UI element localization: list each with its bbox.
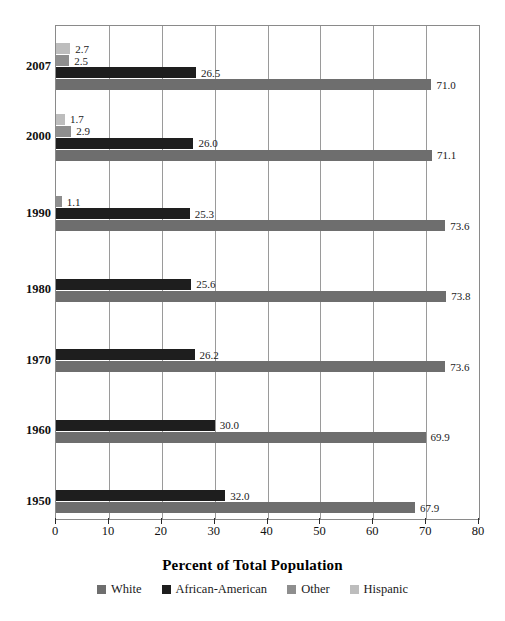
bar-group: 25.673.8 [56,279,479,303]
legend-item-african-american[interactable]: African-American [162,583,268,596]
bar-value-label: 2.9 [76,126,90,137]
gridline [426,26,427,519]
legend-label: Other [301,583,329,596]
bar-white[interactable] [56,291,446,302]
bar-white[interactable] [56,79,431,90]
bar-hispanic[interactable] [56,114,65,125]
bar-value-label: 25.3 [195,208,214,219]
bar-row: 73.8 [56,291,479,302]
axis-tick-label: 0 [52,525,58,538]
bar-value-label: 73.6 [450,220,469,231]
bar-value-label: 26.2 [200,349,219,360]
axis-tick-label: 10 [102,525,115,538]
bar-african-american[interactable] [56,138,193,149]
year-label-1990: 1990 [3,207,51,220]
bar-value-label: 73.8 [451,291,470,302]
legend-swatch-icon [350,585,359,594]
bar-row: 67.9 [56,502,479,513]
bar-white[interactable] [56,432,426,443]
bar-value-label: 30.0 [220,420,239,431]
bar-value-label: 1.7 [70,114,84,125]
axis-title: Percent of Total Population [0,557,505,574]
axis-tick-label: 40 [260,525,273,538]
gridline [215,26,216,519]
axis-tick-label: 30 [207,525,220,538]
gridline [320,26,321,519]
legend-label: White [111,583,142,596]
bar-value-label: 2.5 [74,55,88,66]
bar-group: 26.273.6 [56,349,479,373]
bar-row: 69.9 [56,432,479,443]
year-label-2007: 2007 [3,60,51,73]
bar-row: 26.5 [56,67,479,78]
bar-row: 73.6 [56,220,479,231]
bar-other[interactable] [56,55,69,66]
axis-tick-label: 60 [366,525,379,538]
bar-african-american[interactable] [56,420,215,431]
bar-row: 30.0 [56,420,479,431]
bar-white[interactable] [56,502,415,513]
bar-row: 32.0 [56,490,479,501]
bar-chart: 2007200019901980197019601950 2.72.526.57… [0,0,505,621]
gridline [373,26,374,519]
bar-row: 2.7 [56,43,479,54]
year-label-1960: 1960 [3,424,51,437]
bar-row: 71.1 [56,150,479,161]
legend-item-hispanic[interactable]: Hispanic [350,583,408,596]
bar-value-label: 1.1 [67,196,81,207]
bar-row: 2.5 [56,55,479,66]
bar-row: 73.6 [56,361,479,372]
gridline [162,26,163,519]
bar-other[interactable] [56,126,71,137]
gridline [109,26,110,519]
axis-tick-label: 20 [155,525,168,538]
year-label-1980: 1980 [3,283,51,296]
bar-value-label: 73.6 [450,361,469,372]
bar-value-label: 26.0 [198,138,217,149]
bar-african-american[interactable] [56,279,191,290]
year-label-1970: 1970 [3,354,51,367]
value-axis: 01020304050607080 [55,518,478,544]
bar-value-label: 67.9 [420,502,439,513]
bar-group: 2.72.526.571.0 [56,43,479,91]
legend-swatch-icon [287,585,296,594]
bar-value-label: 2.7 [75,43,89,54]
bar-value-label: 71.0 [436,79,455,90]
legend-item-white[interactable]: White [97,583,142,596]
bar-white[interactable] [56,220,445,231]
bar-row: 26.0 [56,138,479,149]
bar-african-american[interactable] [56,208,190,219]
plot-area: 2.72.526.571.01.72.926.071.11.125.373.62… [55,25,480,520]
bar-other[interactable] [56,196,62,207]
bar-row: 25.3 [56,208,479,219]
bar-row: 71.0 [56,79,479,90]
bar-row: 1.1 [56,196,479,207]
bar-value-label: 71.1 [437,150,456,161]
bar-white[interactable] [56,150,432,161]
legend-swatch-icon [97,585,106,594]
bar-row: 26.2 [56,349,479,360]
axis-tick-label: 50 [313,525,326,538]
bar-value-label: 26.5 [201,67,220,78]
axis-tick-label: 80 [472,525,485,538]
bar-african-american[interactable] [56,490,225,501]
bar-hispanic[interactable] [56,43,70,54]
bar-row: 25.6 [56,279,479,290]
bar-african-american[interactable] [56,349,195,360]
year-label-2000: 2000 [3,130,51,143]
legend: WhiteAfrican-AmericanOtherHispanic [0,583,505,596]
bar-group: 30.069.9 [56,420,479,444]
legend-label: Hispanic [364,583,408,596]
bar-african-american[interactable] [56,67,196,78]
legend-label: African-American [176,583,268,596]
bar-row: 1.7 [56,114,479,125]
legend-item-other[interactable]: Other [287,583,329,596]
year-label-1950: 1950 [3,495,51,508]
axis-tick-label: 70 [419,525,432,538]
gridline [268,26,269,519]
bar-group: 1.125.373.6 [56,196,479,232]
bar-value-label: 32.0 [230,490,249,501]
bar-value-label: 25.6 [196,279,215,290]
bar-white[interactable] [56,361,445,372]
legend-swatch-icon [162,585,171,594]
